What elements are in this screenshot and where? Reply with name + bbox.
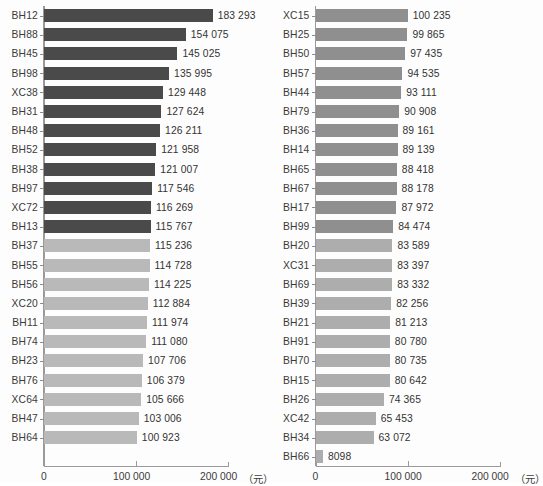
bar-row: BH5794 535 xyxy=(272,64,543,83)
bar-row: BH6588 418 xyxy=(272,160,543,179)
bar-container: 80 642 xyxy=(316,374,543,387)
bar xyxy=(44,297,148,310)
bar-row: BH13115 767 xyxy=(0,217,272,236)
bar xyxy=(316,374,390,387)
bar-value-label: 121 007 xyxy=(160,164,198,175)
bar-row: XC64105 666 xyxy=(0,390,272,409)
x-tick-label-100000-right: 100 000 xyxy=(385,471,422,482)
bar-row: XC38129 448 xyxy=(0,83,272,102)
category-label: BH48 xyxy=(0,125,38,136)
bar xyxy=(316,9,408,22)
bar-container: 63 072 xyxy=(316,431,543,444)
category-label: BH14 xyxy=(272,144,310,155)
category-label: BH34 xyxy=(272,432,310,443)
chart-panel-left: BH12183 293BH88154 075BH45145 025BH98135… xyxy=(0,0,272,483)
bar xyxy=(316,28,408,41)
bar-value-label: 63 072 xyxy=(379,432,411,443)
x-axis-unit-left: （元） xyxy=(243,471,273,486)
bar-value-label: 89 139 xyxy=(403,144,435,155)
bar-container: 82 256 xyxy=(316,297,543,310)
bar-value-label: 115 767 xyxy=(156,221,193,232)
bar-container: 88 418 xyxy=(316,163,543,176)
bar-container: 97 435 xyxy=(316,47,543,60)
bar-value-label: 111 974 xyxy=(152,317,188,328)
category-label: XC38 xyxy=(0,87,38,98)
bar-row: BH97117 546 xyxy=(0,179,272,198)
category-label: BH44 xyxy=(272,87,310,98)
bar-value-label: 100 923 xyxy=(142,432,180,443)
bar xyxy=(44,67,169,80)
category-label: BH20 xyxy=(272,240,310,251)
category-label: BH55 xyxy=(0,260,38,271)
bar-value-label: 111 080 xyxy=(151,336,187,347)
bar xyxy=(316,163,397,176)
bar xyxy=(44,316,147,329)
bar-value-label: 97 435 xyxy=(410,48,442,59)
bar-row: BH56114 225 xyxy=(0,275,272,294)
bar-row: BH6983 332 xyxy=(272,275,543,294)
bar-row: XC20112 884 xyxy=(0,294,272,313)
category-label: BH45 xyxy=(0,48,38,59)
bar-container: 121 958 xyxy=(44,143,272,156)
bar-value-label: 8098 xyxy=(328,451,351,462)
bar xyxy=(44,220,151,233)
bar xyxy=(44,278,149,291)
category-label: BH66 xyxy=(272,451,310,462)
bar-container: 107 706 xyxy=(44,354,272,367)
bar-row: BH2674 365 xyxy=(272,390,543,409)
bar xyxy=(316,412,376,425)
bar-container: 83 397 xyxy=(316,259,543,272)
bar-container: 105 666 xyxy=(44,393,272,406)
bar-row: BH4493 111 xyxy=(272,83,543,102)
category-label: BH47 xyxy=(0,413,38,424)
bar-value-label: 114 728 xyxy=(155,260,192,271)
bar-container: 90 908 xyxy=(316,105,543,118)
bar-value-label: 121 958 xyxy=(161,144,199,155)
bar-container: 145 025 xyxy=(44,47,272,60)
bar xyxy=(44,163,155,176)
category-label: BH98 xyxy=(0,68,38,79)
bar xyxy=(44,335,146,348)
bar-container: 115 236 xyxy=(44,239,272,252)
bar-value-label: 145 025 xyxy=(182,48,220,59)
category-label: BH38 xyxy=(0,164,38,175)
bar-value-label: 89 161 xyxy=(403,125,435,136)
category-label: XC20 xyxy=(0,298,38,309)
bar-row: BH98135 995 xyxy=(0,64,272,83)
bar-rows-left: BH12183 293BH88154 075BH45145 025BH98135… xyxy=(0,6,272,447)
bar-row: BH2599 865 xyxy=(272,25,543,44)
category-label: BH37 xyxy=(0,240,38,251)
bar-container: 111 974 xyxy=(44,316,272,329)
bar xyxy=(44,431,137,444)
bar xyxy=(44,9,213,22)
bar-row: BH88154 075 xyxy=(0,25,272,44)
category-label: BH69 xyxy=(272,279,310,290)
bar xyxy=(44,412,139,425)
bar-container: 112 884 xyxy=(44,297,272,310)
bar-row: BH37115 236 xyxy=(0,236,272,255)
bar-value-label: 84 474 xyxy=(398,221,430,232)
bar-container: 65 453 xyxy=(316,412,543,425)
bar-value-label: 80 735 xyxy=(395,355,427,366)
bar xyxy=(316,278,393,291)
bar-container: 115 767 xyxy=(44,220,272,233)
bar-row: BH48126 211 xyxy=(0,121,272,140)
x-axis-end-cap-left xyxy=(228,462,229,467)
bar-container: 183 293 xyxy=(44,9,272,22)
category-label: XC72 xyxy=(0,202,38,213)
bar-value-label: 106 379 xyxy=(147,375,185,386)
bar-row: BH3982 256 xyxy=(272,294,543,313)
bar-value-label: 112 884 xyxy=(153,298,190,309)
bar-row: BH74111 080 xyxy=(0,332,272,351)
bar-value-label: 83 589 xyxy=(397,240,429,251)
bar-rows-right: XC15100 235BH2599 865BH5097 435BH5794 53… xyxy=(272,6,543,467)
bar-container: 83 332 xyxy=(316,278,543,291)
x-axis-left xyxy=(44,466,228,467)
bar-container: 111 080 xyxy=(44,335,272,348)
category-label: XC64 xyxy=(0,394,38,405)
bar-container: 84 474 xyxy=(316,220,543,233)
bar-row: XC15100 235 xyxy=(272,6,543,25)
bar-row: BH7990 908 xyxy=(272,102,543,121)
category-label: BH91 xyxy=(272,336,310,347)
bar-container: 116 269 xyxy=(44,201,272,214)
